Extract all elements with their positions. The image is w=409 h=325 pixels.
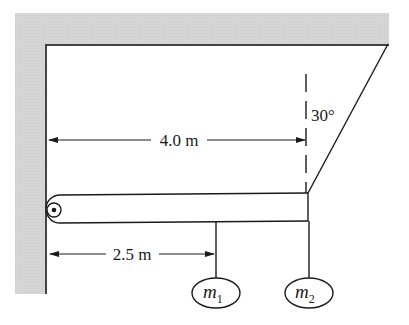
wall-edge [46, 45, 389, 294]
mass-m2-symbol: m [295, 281, 309, 302]
wall-ceiling-support [15, 13, 389, 294]
mass-m1-subscript: 1 [217, 292, 223, 306]
beam-length-label: 4.0 m [160, 131, 199, 150]
hinge-pin [52, 208, 57, 213]
mass-m1: m1 [192, 278, 240, 308]
beam-outline [46, 193, 308, 223]
beam [46, 193, 308, 223]
dimension-beam-length: 4.0 m [49, 131, 305, 150]
hinge-pivot [47, 203, 61, 217]
mass-m1-symbol: m [203, 281, 217, 302]
angle-label: 30° [311, 106, 335, 125]
diagram-canvas: 30° 4.0 m 2.5 m m1 m2 [0, 0, 409, 325]
mass-m2-subscript: 2 [309, 292, 315, 306]
wall-fill [15, 13, 389, 294]
mass-m2: m2 [285, 278, 333, 308]
m1-distance-label: 2.5 m [113, 245, 152, 264]
dimension-m1-distance: 2.5 m [50, 245, 214, 264]
